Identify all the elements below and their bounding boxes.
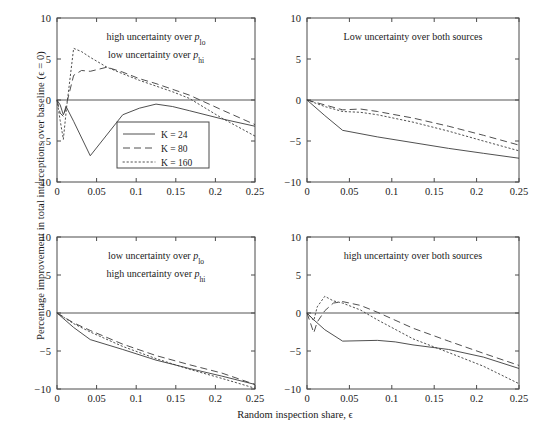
legend-label: K = 24 (161, 130, 188, 140)
y-tick-label: −10 (285, 177, 301, 188)
x-tick-label: 0.05 (87, 186, 105, 197)
y-tick-label: 0 (296, 95, 301, 106)
panel-title: Low uncertainty over both sources (344, 31, 483, 42)
y-tick-label: 10 (291, 232, 302, 243)
series-line-dashed (57, 313, 255, 384)
x-tick-label: 0 (54, 393, 59, 404)
x-tick-label: 0.2 (470, 393, 483, 404)
figure-container: Percentage improvement in total intercep… (0, 0, 534, 431)
panel-bottom-right: 00.050.10.150.20.251050−5−10high uncerta… (285, 232, 529, 404)
x-tick-label: 0.25 (510, 186, 528, 197)
series-line-solid (307, 313, 519, 368)
x-tick-label: 0.25 (246, 393, 264, 404)
panel-title: high uncertainty over both sources (344, 250, 482, 261)
panel-top-left: 00.050.10.150.20.251050−5−10high uncerta… (35, 13, 265, 197)
panel-title: low uncertainty over phi (108, 49, 204, 65)
series-line-solid (57, 313, 255, 384)
panel-title: high uncertainty over phi (107, 268, 206, 284)
series-line-dotted (307, 296, 519, 383)
legend: K = 24K = 80K = 160 (117, 122, 209, 168)
x-tick-label: 0.25 (510, 393, 528, 404)
panel-bottom-left: 00.050.10.150.20.251050−5−10low uncertai… (35, 232, 265, 404)
y-tick-label: 10 (291, 13, 302, 24)
y-tick-label: −10 (285, 384, 301, 395)
y-tick-label: 0 (46, 95, 51, 106)
x-tick-label: 0.2 (209, 186, 222, 197)
x-tick-label: 0 (54, 186, 59, 197)
x-tick-label: 0.05 (340, 393, 358, 404)
series-line-solid (307, 100, 519, 158)
x-tick-label: 0.15 (425, 186, 443, 197)
y-tick-label: −5 (290, 346, 301, 357)
x-tick-label: 0.05 (87, 393, 105, 404)
y-tick-label: −5 (290, 136, 301, 147)
x-tick-label: 0.2 (470, 186, 483, 197)
x-tick-label: 0.15 (425, 393, 443, 404)
x-tick-label: 0.2 (209, 393, 222, 404)
series-line-dashed (57, 67, 255, 124)
y-tick-label: 5 (46, 270, 51, 281)
x-tick-label: 0 (304, 393, 309, 404)
panel-title: low uncertainty over plo (108, 250, 204, 266)
x-tick-label: 0.05 (340, 186, 358, 197)
x-tick-label: 0.1 (385, 393, 398, 404)
y-tick-label: 5 (296, 54, 301, 65)
y-tick-label: 5 (46, 54, 51, 65)
y-tick-label: 5 (296, 270, 301, 281)
x-tick-label: 0.15 (167, 393, 185, 404)
legend-label: K = 80 (161, 144, 188, 154)
legend-label: K = 160 (161, 158, 192, 168)
x-tick-label: 0.1 (130, 186, 143, 197)
y-tick-label: 0 (296, 308, 301, 319)
x-tick-label: 0.1 (385, 186, 398, 197)
y-tick-label: 0 (46, 308, 51, 319)
x-tick-label: 0.15 (167, 186, 185, 197)
x-axis-label: Random inspection share, ϵ (0, 409, 534, 420)
series-line-dotted (307, 100, 519, 151)
y-axis-label: Percentage improvement in total intercep… (35, 0, 46, 396)
panel-title: high uncertainty over plo (107, 31, 206, 47)
plot-svg: 00.050.10.150.20.251050−5−10high uncerta… (0, 0, 534, 431)
x-tick-label: 0 (304, 186, 309, 197)
x-tick-label: 0.25 (246, 186, 264, 197)
panel-top-right: 00.050.10.150.20.251050−5−10Low uncertai… (285, 13, 529, 197)
series-line-dashed (307, 302, 519, 366)
x-tick-label: 0.1 (130, 393, 143, 404)
